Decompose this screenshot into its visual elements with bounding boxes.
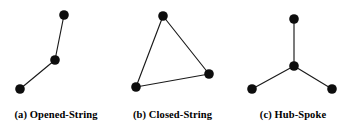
graph-edge [163,16,209,74]
graph-edge [55,15,64,60]
node-bottom-left [15,84,25,94]
graph-edge [252,66,294,89]
graph-opened-string [0,0,115,104]
node-hub [289,61,299,71]
node-bottom-left [131,82,141,92]
node-bottom-left [247,84,257,94]
node-top [158,11,168,21]
panel-opened-string: (a) Opened-String [0,0,115,138]
caption-closed-string: (b) Closed-String [115,108,230,121]
graph-edge [294,66,332,89]
panel-closed-string: (b) Closed-String [115,0,230,138]
caption-opened-string: (a) Opened-String [0,108,115,121]
graph-hub-spoke [230,0,349,104]
node-middle [50,55,60,65]
graph-edge [20,60,55,89]
node-top [59,10,69,20]
node-top [289,14,299,24]
node-bottom-right [327,84,337,94]
graph-edge [136,16,163,87]
panel-hub-spoke: (c) Hub-Spoke [230,0,349,138]
caption-hub-spoke: (c) Hub-Spoke [230,108,349,121]
node-right [204,69,214,79]
figure-container: (a) Opened-String (b) Closed-String (c) … [0,0,349,138]
graph-edge [136,74,209,87]
graph-closed-string [115,0,230,104]
